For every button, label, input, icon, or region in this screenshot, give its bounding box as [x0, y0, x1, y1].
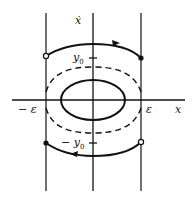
- arrow-left-icon: [70, 151, 78, 157]
- y0-label: y0: [73, 52, 84, 66]
- epsilon-label: ε: [146, 104, 152, 115]
- neg-y0-label: − y0: [61, 137, 84, 151]
- phase-plane-diagram: [0, 0, 195, 201]
- filled-dot-icon: [138, 55, 143, 60]
- xdot-axis-label: ẋ: [75, 15, 81, 26]
- neg-epsilon-label: − ε: [18, 104, 37, 115]
- x-axis-label: x: [175, 104, 181, 115]
- filled-dot-icon: [43, 140, 48, 145]
- open-dot-icon: [138, 139, 143, 144]
- open-dot-icon: [43, 53, 48, 58]
